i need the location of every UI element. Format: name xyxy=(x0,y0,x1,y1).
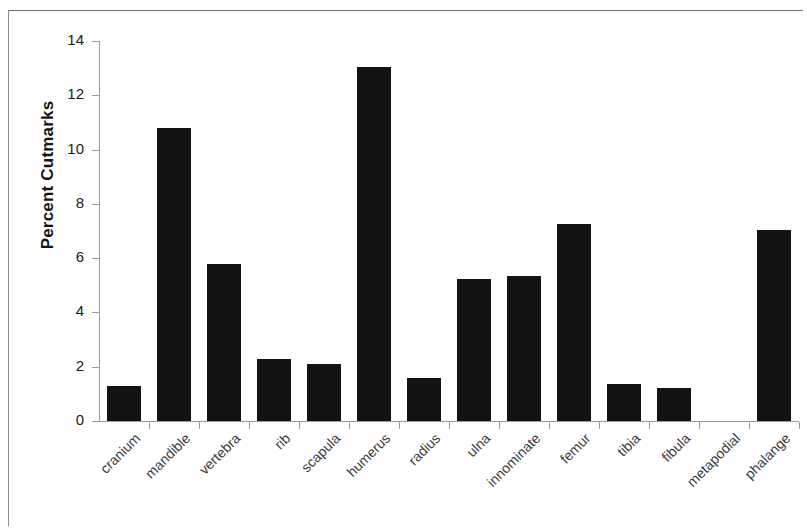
x-axis-tick xyxy=(399,422,400,429)
bar-chart: Percent Cutmarks 02468101214 craniummand… xyxy=(0,0,807,528)
y-axis-tick xyxy=(92,312,99,313)
x-axis-tick xyxy=(249,422,250,429)
y-axis-tick-label: 6 xyxy=(38,248,84,265)
x-axis-tick xyxy=(599,422,600,429)
bar xyxy=(307,364,341,421)
x-axis-tick xyxy=(649,422,650,429)
y-axis-tick-label: 4 xyxy=(38,302,84,319)
y-axis-tick-label: 2 xyxy=(38,357,84,374)
x-axis-tick xyxy=(799,422,800,429)
bar xyxy=(457,279,491,422)
y-axis-tick xyxy=(92,204,99,205)
x-axis-tick xyxy=(299,422,300,429)
y-axis-tick xyxy=(92,367,99,368)
bar xyxy=(357,67,391,421)
y-axis-tick-label: 12 xyxy=(38,85,84,102)
y-axis-tick-label: 14 xyxy=(38,31,84,48)
bar xyxy=(607,384,641,421)
x-axis-tick xyxy=(549,422,550,429)
x-axis-tick xyxy=(749,422,750,429)
x-axis-tick xyxy=(149,422,150,429)
y-axis-title: Percent Cutmarks xyxy=(38,45,58,305)
x-axis-tick xyxy=(449,422,450,429)
y-axis-tick xyxy=(92,258,99,259)
x-axis-tick xyxy=(199,422,200,429)
bar xyxy=(257,359,291,421)
bar xyxy=(557,224,591,421)
bar xyxy=(657,388,691,421)
bar xyxy=(407,378,441,421)
y-axis-tick xyxy=(92,421,99,422)
chart-screenshot: Percent Cutmarks 02468101214 craniummand… xyxy=(0,0,807,528)
y-axis-tick-label: 10 xyxy=(38,140,84,157)
x-axis-tick xyxy=(349,422,350,429)
y-axis-tick-label: 0 xyxy=(38,411,84,428)
bar xyxy=(157,128,191,421)
x-axis-tick xyxy=(499,422,500,429)
bar xyxy=(507,276,541,421)
y-axis-tick-label: 8 xyxy=(38,194,84,211)
bar xyxy=(207,264,241,421)
y-axis-tick xyxy=(92,150,99,151)
y-axis-tick xyxy=(92,41,99,42)
plot-area xyxy=(99,41,799,421)
x-axis-tick xyxy=(699,422,700,429)
bar xyxy=(757,230,791,421)
bar xyxy=(107,386,141,421)
y-axis-tick xyxy=(92,95,99,96)
